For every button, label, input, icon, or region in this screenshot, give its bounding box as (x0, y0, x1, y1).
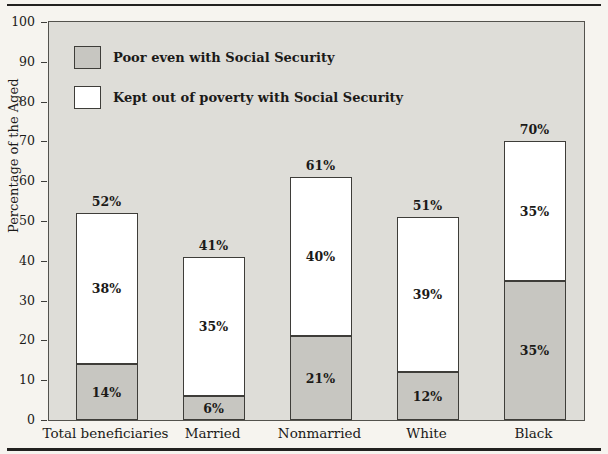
y-tick-mark (41, 181, 47, 182)
y-tick-mark (41, 301, 47, 302)
bar-segment-poor: 35% (504, 281, 566, 420)
bar-segment-kept: 35% (504, 141, 566, 280)
x-category-label-total-beneficiaries: Total beneficiaries (42, 425, 168, 441)
top-rule (7, 4, 601, 6)
y-tick-mark (41, 22, 47, 23)
plot-area: Poor even with Social Security Kept out … (48, 21, 585, 421)
bottom-rule (7, 448, 601, 451)
bar-segment-kept: 35% (183, 257, 245, 396)
y-tick-mark (41, 340, 47, 341)
y-tick-label: 60 (19, 173, 35, 189)
y-tick-label: 90 (19, 54, 35, 70)
bar-total-label: 61% (280, 158, 362, 173)
x-category-label-married: Married (185, 425, 241, 441)
bar-segment-poor: 12% (397, 372, 459, 420)
y-tick-label: 40 (19, 253, 35, 269)
y-tick-label: 80 (19, 94, 35, 110)
y-tick-label: 70 (19, 133, 35, 149)
y-tick-mark (41, 221, 47, 222)
y-tick-mark (41, 261, 47, 262)
bar-segment-kept: 38% (76, 213, 138, 364)
y-tick-label: 10 (19, 372, 35, 388)
y-tick-label: 20 (19, 332, 35, 348)
bar-total-label: 70% (494, 122, 576, 137)
y-tick-mark (41, 102, 47, 103)
bar-total-label: 51% (387, 198, 469, 213)
x-category-label-black: Black (514, 425, 552, 441)
y-tick-label: 30 (19, 293, 35, 309)
bar-total-label: 41% (173, 238, 255, 253)
bar-segment-poor: 14% (76, 364, 138, 420)
bars-layer: 14%38%52%6%35%41%21%40%61%12%39%51%35%35… (49, 22, 584, 420)
bar-segment-poor: 21% (290, 336, 352, 420)
x-category-label-white: White (406, 425, 446, 441)
x-axis-labels: Total beneficiariesMarriedNonmarriedWhit… (48, 425, 585, 447)
y-tick-label: 0 (27, 412, 35, 428)
y-tick-mark (41, 420, 47, 421)
y-tick-label: 50 (19, 213, 35, 229)
bar-segment-kept: 40% (290, 177, 352, 336)
y-tick-mark (41, 141, 47, 142)
y-tick-mark (41, 380, 47, 381)
bar-segment-poor: 6% (183, 396, 245, 420)
y-tick-mark (41, 62, 47, 63)
x-category-label-nonmarried: Nonmarried (278, 425, 361, 441)
bar-total-label: 52% (66, 194, 148, 209)
y-tick-label: 100 (11, 14, 35, 30)
bar-segment-kept: 39% (397, 217, 459, 372)
